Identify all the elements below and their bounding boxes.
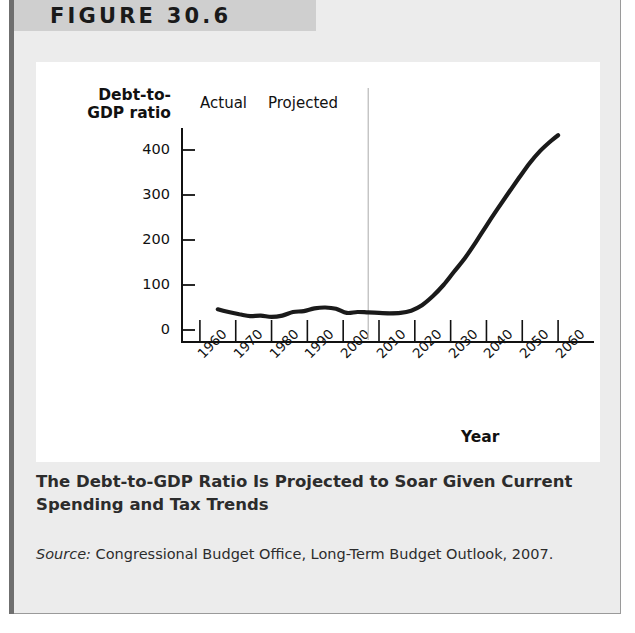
figure-caption: The Debt-to-GDP Ratio Is Projected to So… — [36, 470, 596, 516]
left-accent-rule — [9, 0, 14, 614]
figure-source: Source: Congressional Budget Office, Lon… — [36, 544, 598, 565]
data-series-line — [218, 135, 558, 317]
figure-root: FIGURE 30.6 Debt-to- GDP ratio Year Actu… — [0, 0, 635, 633]
source-text: Congressional Budget Office, Long-Term B… — [91, 546, 553, 562]
figure-header-band: FIGURE 30.6 — [14, 0, 316, 31]
source-prefix: Source: — [36, 546, 91, 562]
chart-panel: Debt-to- GDP ratio Year Actual Projected… — [36, 62, 600, 462]
chart-plot-area — [36, 62, 600, 462]
figure-number-label: FIGURE 30.6 — [50, 4, 231, 28]
